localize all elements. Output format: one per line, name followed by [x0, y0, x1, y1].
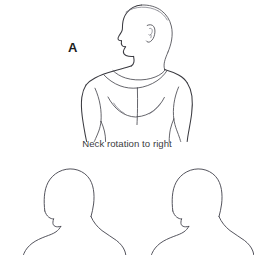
panel-label-a: A: [68, 41, 78, 54]
bottom-left-figure: [23, 169, 125, 255]
bottom-right-figure: [151, 169, 253, 255]
bottom-silhouettes-illustration: [0, 0, 254, 255]
figure-caption: Neck rotation to right: [0, 139, 254, 150]
figure-root: A Neck rotation to right: [0, 0, 254, 255]
